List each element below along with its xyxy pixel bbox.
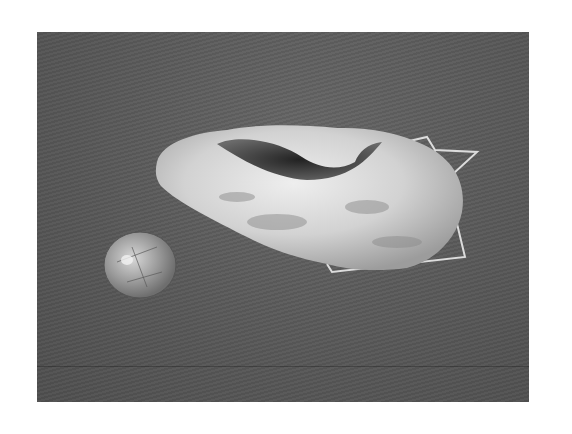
geode — [156, 125, 463, 270]
photo-scene — [37, 32, 529, 402]
photograph — [37, 32, 529, 402]
polished-stone — [104, 232, 176, 298]
